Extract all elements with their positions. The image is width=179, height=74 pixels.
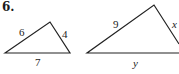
- similar-triangles-diagram: [0, 0, 179, 74]
- triangle-2-side-bottom: y: [133, 57, 138, 69]
- triangle-1-side-right: 4: [62, 28, 68, 40]
- triangle-1-side-bottom: 7: [35, 56, 41, 68]
- triangle-1-side-left: 6: [19, 26, 25, 38]
- triangle-2-side-right: x: [172, 18, 177, 30]
- triangle-1: [5, 22, 70, 53]
- triangle-2-side-left: 9: [113, 18, 119, 30]
- triangle-2: [87, 5, 179, 53]
